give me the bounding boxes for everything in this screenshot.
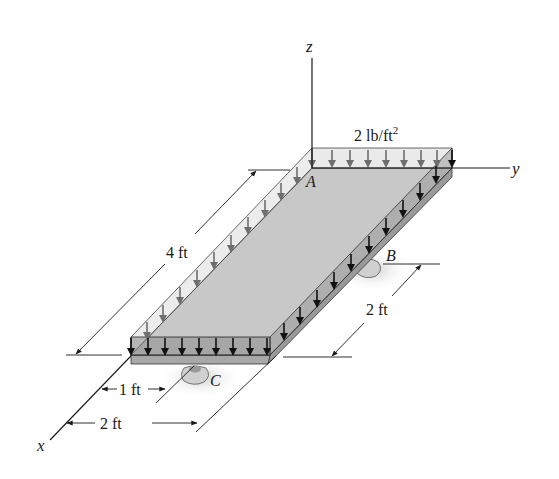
dim-2ft-right-label: 2 ft: [366, 301, 388, 318]
dim-2ft-front-label: 2 ft: [100, 415, 122, 432]
load-arrows-front: [127, 338, 271, 356]
z-axis-label: z: [305, 37, 313, 56]
y-axis-label: y: [510, 159, 520, 178]
plate-diagram: z y x A B C 2 lb/ft2 4 ft 2 ft 1 ft 2 ft: [0, 0, 559, 479]
point-b-label: B: [386, 247, 396, 264]
plate-front-face: [131, 355, 270, 364]
dim-1ft-label: 1 ft: [119, 381, 141, 398]
support-c-icon: [182, 366, 209, 385]
x-axis-label: x: [36, 436, 45, 455]
point-c-label: C: [210, 372, 221, 389]
dim-4ft-label: 4 ft: [166, 244, 188, 261]
point-a-label: A: [305, 173, 316, 190]
load-label: 2 lb/ft2: [354, 124, 398, 144]
